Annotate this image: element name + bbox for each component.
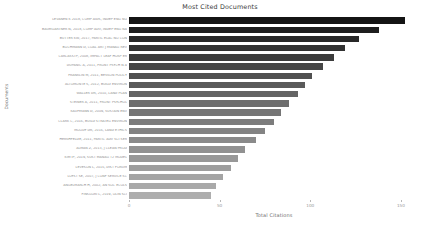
category-label: ALMAN Z, 2013, J CLEAN PROD xyxy=(3,147,127,150)
bar[interactable] xyxy=(129,17,405,23)
bar-row xyxy=(129,146,419,152)
bar[interactable] xyxy=(129,45,345,51)
x-axis-tick-mark xyxy=(310,200,311,202)
category-label: ALTOMONTE S, 2012, BUILD ENVIRON xyxy=(3,83,127,86)
category-label-layer: LEVANEN K 2018, COMP AIDS, INDEP ENG NOB… xyxy=(0,16,127,200)
plot-area xyxy=(129,16,419,200)
chart-title: Most Cited Documents xyxy=(0,3,440,11)
bar-row xyxy=(129,36,419,42)
bar-row xyxy=(129,63,419,69)
bar[interactable] xyxy=(129,91,298,97)
bar[interactable] xyxy=(129,119,274,125)
bar[interactable] xyxy=(129,100,289,106)
bar-row xyxy=(129,27,419,33)
category-label: BOCHMANN D, COAL ART J MANAG REV xyxy=(3,46,127,49)
bar-row xyxy=(129,128,419,134)
x-axis-tick-mark xyxy=(401,200,402,202)
category-label: FINSGORI L, 2019, OLIN SCI xyxy=(3,193,127,196)
bar[interactable] xyxy=(129,165,231,171)
bar-row xyxy=(129,155,419,161)
category-label: KIM IP, 2019, SUST MANAG T2 MODEL xyxy=(3,156,127,159)
bar[interactable] xyxy=(129,36,359,42)
category-label: STEINER A, 2011, FRONT PSYCHOL xyxy=(3,101,127,104)
x-axis-tick-layer: 050100150 xyxy=(129,200,419,212)
category-label: BUTTER KW, 2017, PARTIC ELAC NO CON xyxy=(3,37,127,40)
category-label: MOODY DR, 2016, LAND ETHICS xyxy=(3,129,127,132)
bar-row xyxy=(129,137,419,143)
bar-row xyxy=(129,174,419,180)
bar[interactable] xyxy=(129,137,256,143)
x-axis-tick-mark xyxy=(129,200,130,202)
category-label: LOYST SE, 2007, J CONF SERVICE SC xyxy=(3,175,127,178)
bar[interactable] xyxy=(129,63,323,69)
bar-row xyxy=(129,183,419,189)
bar-row xyxy=(129,119,419,125)
bar[interactable] xyxy=(129,174,223,180)
x-axis-tick-label: 100 xyxy=(306,203,314,208)
bar-row xyxy=(129,82,419,88)
bar-row xyxy=(129,91,419,97)
category-label: LEVANEN K 2018, COMP AIDS, INDEP ENG NO xyxy=(3,18,127,21)
bar[interactable] xyxy=(129,54,334,60)
category-label: CLARK C, 2016, BUILD STRATEG ENVIRON xyxy=(3,120,127,123)
bar-row xyxy=(129,73,419,79)
category-label: KAUFMANN D, 2009, SUSTAIN ENV xyxy=(3,110,127,113)
most-cited-documents-chart: Most Cited Documents Documents LEVANEN K… xyxy=(0,0,440,227)
bar-row xyxy=(129,54,419,60)
bar[interactable] xyxy=(129,146,245,152)
category-label: WALLER DR, 2010, LAND PLAN xyxy=(3,92,127,95)
bar-row xyxy=(129,165,419,171)
bar[interactable] xyxy=(129,183,216,189)
category-label: DUPANIC A, 2011, FRONT PSYCH N A xyxy=(3,64,127,67)
bar[interactable] xyxy=(129,128,265,134)
category-label: BAUMGARTNER N, 2018, COMP ADV, INDEP ENG… xyxy=(3,28,127,31)
bar-row xyxy=(129,17,419,23)
x-axis-tick-mark xyxy=(220,200,221,202)
category-label: CARCASSTP, 2008, IMPACT LEAF HOSP ER xyxy=(3,55,127,58)
category-label: LEVESON L, 2016, DIST FORUM xyxy=(3,166,127,169)
x-axis-tick-label: 150 xyxy=(397,203,405,208)
bar[interactable] xyxy=(129,82,305,88)
bar[interactable] xyxy=(129,109,281,115)
x-axis-tick-label: 0 xyxy=(128,203,131,208)
bar[interactable] xyxy=(129,27,379,33)
bar-row xyxy=(129,45,419,51)
category-label: ANGELMARCH H, 2002, AN SOC ECOLS xyxy=(3,184,127,187)
category-label: HERSHFELDE, 2011, PARTIC ADV SCI SER xyxy=(3,138,127,141)
bar[interactable] xyxy=(129,73,312,79)
bar[interactable] xyxy=(129,155,238,161)
bar[interactable] xyxy=(129,192,211,198)
bar-row xyxy=(129,109,419,115)
bar-row xyxy=(129,192,419,198)
x-axis-label: Total Citations xyxy=(129,212,419,218)
bar-row xyxy=(129,100,419,106)
category-label: FRANKLIN M, 2011, BESSON POLICY xyxy=(3,74,127,77)
x-axis-tick-label: 50 xyxy=(217,203,222,208)
